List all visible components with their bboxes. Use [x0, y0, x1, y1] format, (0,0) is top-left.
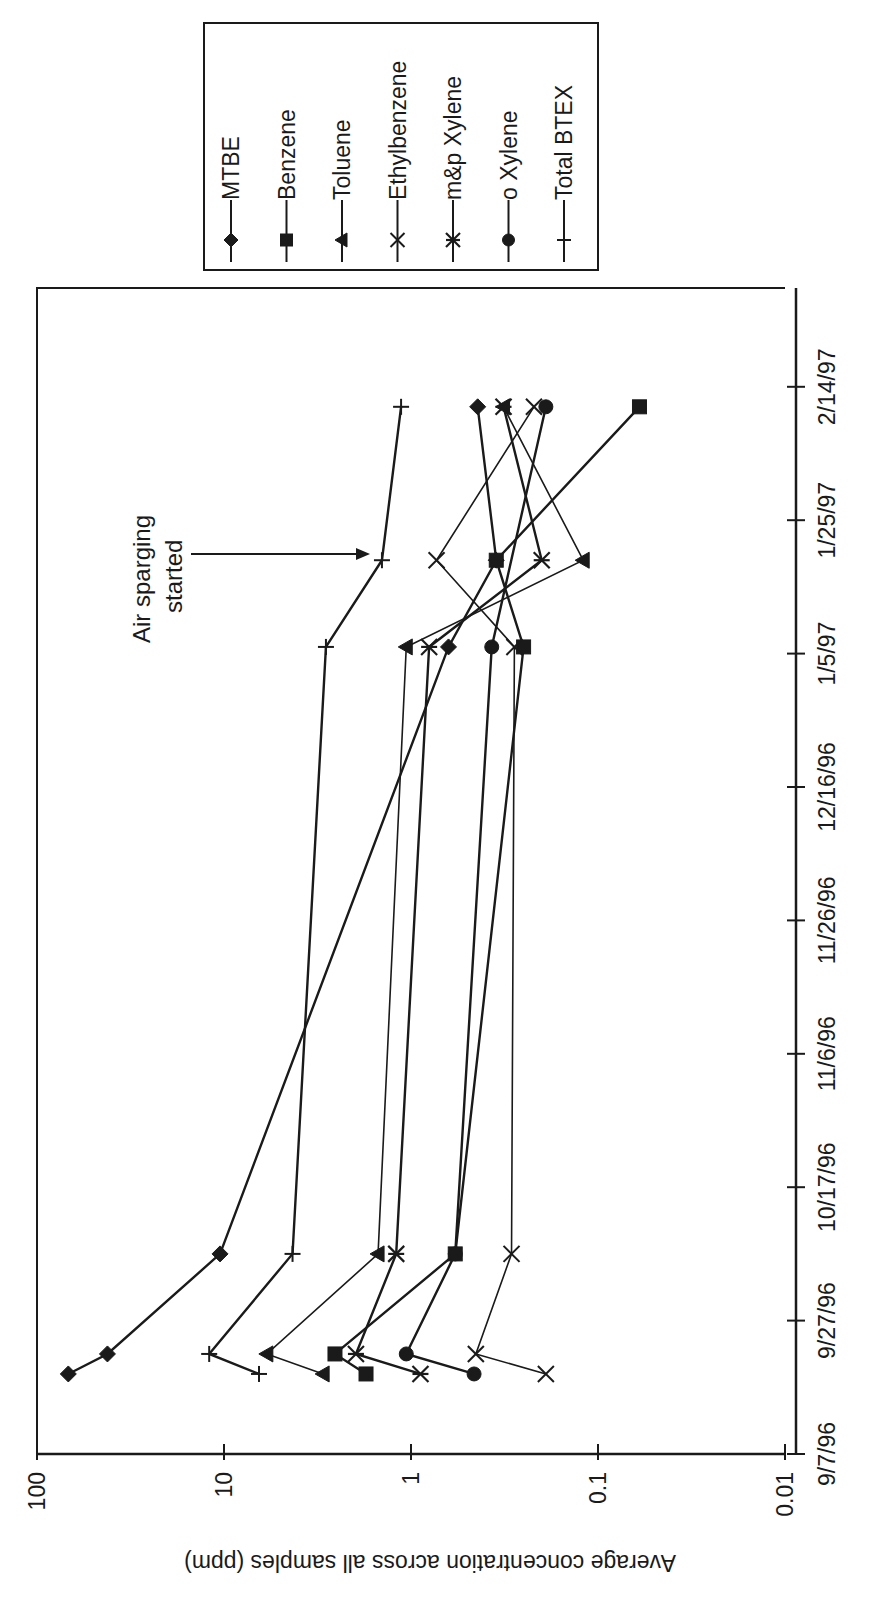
annotation-line-1: Air sparging — [128, 515, 155, 643]
asterisk-marker-icon — [348, 1346, 364, 1362]
value-tick-label: 0.01 — [772, 1472, 798, 1517]
date-tick-label: 2/14/97 — [814, 348, 840, 425]
value-tick-label: 1 — [398, 1472, 424, 1485]
circle-marker-icon — [399, 1347, 413, 1361]
circle-marker-icon — [448, 1247, 462, 1261]
legend: MTBEBenzeneTolueneEthylbenzenem&p Xylene… — [204, 23, 598, 270]
series-line — [437, 407, 546, 1374]
circle-marker-icon — [539, 400, 553, 414]
value-tick-label: 0.1 — [585, 1472, 611, 1504]
diamond-marker-icon — [470, 399, 486, 415]
square-marker-icon — [359, 1367, 373, 1381]
series-line — [209, 407, 401, 1374]
series-mtbe — [60, 399, 504, 1382]
series-line — [406, 407, 546, 1374]
value-axis-title: Average concentration across all samples… — [184, 1550, 676, 1576]
legend-label: m&p Xylene — [440, 76, 466, 200]
x-marker-icon — [538, 1366, 554, 1382]
series-line — [335, 407, 640, 1374]
plot-frame — [37, 288, 785, 1454]
x-marker-icon — [468, 1346, 484, 1362]
plot-border — [37, 288, 785, 1454]
series-line — [267, 407, 583, 1374]
square-marker-icon — [281, 234, 293, 246]
date-tick-label: 10/17/96 — [814, 1142, 840, 1232]
date-axis: 9/7/969/27/9610/17/9611/6/9611/26/9612/1… — [787, 288, 840, 1486]
triangle-marker-icon — [575, 552, 589, 568]
square-marker-icon — [489, 553, 503, 567]
square-marker-icon — [632, 400, 646, 414]
square-marker-icon — [328, 1347, 342, 1361]
date-tick-label: 12/16/96 — [814, 742, 840, 832]
legend-label: o Xylene — [496, 110, 522, 200]
asterisk-marker-icon — [496, 399, 512, 415]
series-benzene — [328, 400, 647, 1381]
triangle-marker-icon — [259, 1346, 273, 1362]
date-tick-label: 9/27/96 — [814, 1282, 840, 1359]
series-toluene — [259, 399, 589, 1382]
plus-marker-icon — [374, 552, 390, 568]
annotation-line-2: started — [160, 540, 187, 613]
legend-label: MTBE — [218, 136, 244, 200]
legend-label: Ethylbenzene — [385, 61, 411, 200]
circle-marker-icon — [467, 1367, 481, 1381]
asterisk-marker-icon — [412, 1366, 428, 1382]
x-marker-icon — [429, 552, 445, 568]
date-tick-label: 11/26/96 — [814, 876, 840, 964]
legend-label: Total BTEX — [551, 85, 577, 200]
triangle-marker-icon — [315, 1366, 329, 1382]
date-tick-label: 11/6/96 — [814, 1016, 840, 1091]
value-tick-label: 10 — [211, 1472, 237, 1498]
arrow-head-icon — [356, 548, 370, 560]
date-tick-label: 1/25/97 — [814, 482, 840, 559]
series-ethylbenzene — [429, 399, 554, 1382]
chart: 1001010.10.01 9/7/969/27/9610/17/9611/6/… — [0, 0, 886, 1601]
value-tick-label: 100 — [24, 1472, 50, 1510]
circle-marker-icon — [485, 640, 499, 654]
diamond-marker-icon — [60, 1366, 76, 1382]
y-axis-label: Average concentration across all samples… — [184, 1550, 676, 1576]
date-tick-label: 9/7/96 — [814, 1422, 840, 1486]
value-axis: 1001010.10.01 — [24, 1444, 798, 1517]
legend-label: Benzene — [274, 109, 300, 200]
series-o-xylene — [399, 400, 553, 1381]
date-tick-label: 1/5/97 — [814, 622, 840, 686]
asterisk-marker-icon — [534, 552, 550, 568]
legend-label: Toluene — [329, 119, 355, 200]
diamond-marker-icon — [441, 639, 457, 655]
annotation: Air sparging started — [128, 515, 370, 643]
plus-marker-icon — [393, 399, 409, 415]
plus-marker-icon — [251, 1366, 267, 1382]
circle-marker-icon — [503, 234, 515, 246]
plus-marker-icon — [318, 639, 334, 655]
series-total-btex — [201, 399, 409, 1382]
